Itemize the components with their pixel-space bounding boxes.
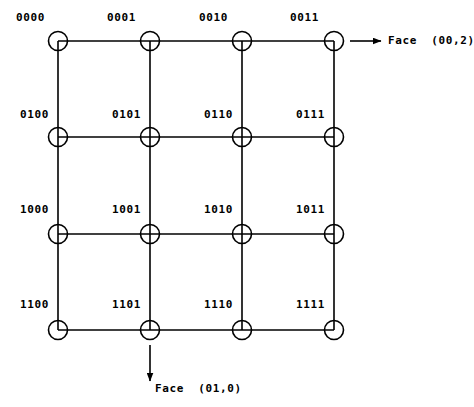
grid-graphics bbox=[0, 0, 474, 407]
node-label-0101: 0101 bbox=[112, 109, 141, 121]
node-label-1000: 1000 bbox=[20, 204, 49, 216]
node-label-1010: 1010 bbox=[204, 204, 233, 216]
node-label-0000: 0000 bbox=[16, 12, 45, 24]
node-label-0111: 0111 bbox=[296, 109, 325, 121]
annotation-label-face-01-0: Face (01,0) bbox=[155, 383, 242, 395]
node-label-0010: 0010 bbox=[199, 12, 228, 24]
annotation-label-face-00-2: Face (00,2) bbox=[388, 35, 474, 47]
network-diagram-figure: 0000000100100011010001010110011110001001… bbox=[0, 0, 474, 407]
node-label-0001: 0001 bbox=[107, 12, 136, 24]
node-label-1011: 1011 bbox=[296, 204, 325, 216]
node-label-1101: 1101 bbox=[112, 299, 141, 311]
edges-layer bbox=[58, 41, 334, 330]
node-label-1111: 1111 bbox=[296, 299, 325, 311]
node-label-1110: 1110 bbox=[204, 299, 233, 311]
node-label-0100: 0100 bbox=[20, 109, 49, 121]
node-label-0011: 0011 bbox=[290, 12, 319, 24]
node-label-1001: 1001 bbox=[112, 204, 141, 216]
node-label-0110: 0110 bbox=[204, 109, 233, 121]
node-label-1100: 1100 bbox=[20, 299, 49, 311]
nodes-layer bbox=[49, 32, 344, 340]
